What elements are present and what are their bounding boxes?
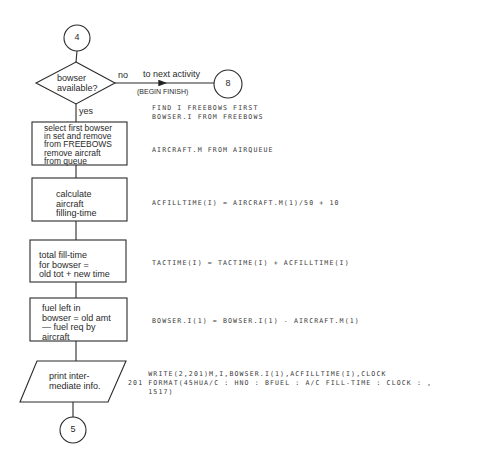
code-find-line: FIND I FREEBOWS FIRST <box>152 104 258 113</box>
code-format-line: 201 FORMAT(45HUA/C : HNO : BFUEL : A/C F… <box>128 379 432 388</box>
code-write-line: WRITE(2,201)M,I,BOWSER.I(1),ACFILLTIME(I… <box>128 370 387 379</box>
code-format-cont-line: 1517) <box>128 388 174 397</box>
decision-no-label: no <box>118 71 128 81</box>
no-branch-label: to next activity <box>143 70 200 80</box>
process-box-1-text: select first bowser in set and remove fr… <box>44 124 112 165</box>
output-step-text: print inter- mediate info. <box>49 372 101 391</box>
connector-8-label: 8 <box>218 78 238 88</box>
decision-text: bowser available? <box>57 74 98 93</box>
connector-5-label: 5 <box>63 424 83 434</box>
code-aircraft-from-line: AIRCRAFT.M FROM AIRQUEUE <box>152 146 274 155</box>
no-branch-note: (BEGIN FINISH) <box>137 87 188 97</box>
decision-yes-label: yes <box>79 107 93 117</box>
process-box-4-text: fuel left in bowser = old amt — fuel req… <box>42 304 111 342</box>
code-acfilltime-line: ACFILLTIME(I) = AIRCRAFT.M(1)/50 + 10 <box>152 199 340 208</box>
code-bowser-update-line: BOWSER.I(1) = BOWSER.I(1) - AIRCRAFT.M(1… <box>152 317 360 326</box>
connector-4-label: 4 <box>67 32 87 42</box>
code-bowser-from-line: BOWSER.I FROM FREEBOWS <box>152 113 264 122</box>
flowchart-shapes <box>0 0 486 465</box>
code-tactime-line: TACTIME(I) = TACTIME(I) + ACFILLTIME(I) <box>152 259 350 268</box>
process-box-2-text: calculate aircraft filling-time <box>56 190 97 219</box>
process-box-3-text: total fill-time for bowser = old tot + n… <box>39 251 110 280</box>
